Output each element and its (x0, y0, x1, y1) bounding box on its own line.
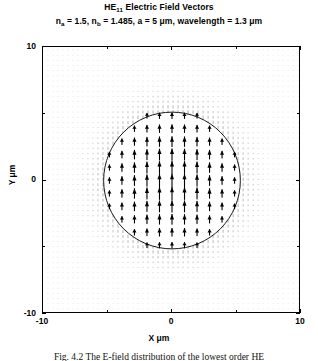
x-tick-label-0: -10 (22, 317, 62, 326)
x-tick-minor-0 (107, 310, 108, 313)
x-tick-minor-top-0 (107, 46, 108, 49)
y-tick-label-2: 10 (6, 42, 36, 51)
x-tick-minor-top-1 (236, 46, 237, 49)
y-tick-minor-1 (42, 113, 45, 114)
figure-title-rest: Electric Field Vectors (123, 2, 214, 12)
y-tick-major-1 (42, 180, 46, 181)
plot-area (42, 46, 300, 313)
x-tick-major-0 (42, 309, 43, 313)
x-tick-minor-1 (236, 310, 237, 313)
x-axis-title: X μm (0, 333, 318, 343)
figure-title: HE11 Electric Field Vectors (0, 2, 318, 15)
x-tick-major-2 (300, 309, 301, 313)
x-tick-top-2 (300, 46, 301, 50)
index-na-value: = 1.5, (65, 16, 92, 26)
x-tick-top-0 (42, 46, 43, 50)
vector-field-plot (43, 47, 300, 313)
y-tick-right-1 (296, 180, 300, 181)
y-tick-minor-right-1 (297, 113, 300, 114)
figure-subtitle: na = 1.5, nb = 1.485, a = 5 μm, waveleng… (0, 16, 318, 29)
y-tick-minor-right-0 (297, 246, 300, 247)
figure-caption: Fig. 4.2 The E-field distribution of the… (0, 352, 318, 361)
x-tick-major-1 (171, 309, 172, 313)
x-tick-label-1: 0 (151, 317, 191, 326)
y-axis-title: Y μm (7, 150, 17, 200)
y-tick-right-0 (296, 313, 300, 314)
y-tick-minor-0 (42, 246, 45, 247)
x-tick-label-2: 10 (280, 317, 318, 326)
index-nb-value: = 1.485, a = 5 μm, wavelength = 1.3 μm (101, 16, 262, 26)
figure-container: HE11 Electric Field Vectors na = 1.5, nb… (0, 0, 318, 361)
figure-title-mode: HE (104, 2, 116, 12)
x-tick-top-1 (171, 46, 172, 50)
y-tick-major-0 (42, 313, 46, 314)
